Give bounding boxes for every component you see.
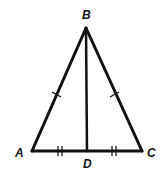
triangle-diagram: B A C D [0, 0, 167, 177]
vertex-label-a: A [14, 146, 24, 160]
segment-bd-median [86, 28, 87, 151]
vertex-label-b: B [82, 8, 91, 22]
segment-bc [86, 28, 142, 151]
vertex-label-c: C [147, 146, 156, 160]
vertex-label-d: D [83, 157, 92, 171]
segment-ab [32, 28, 86, 151]
